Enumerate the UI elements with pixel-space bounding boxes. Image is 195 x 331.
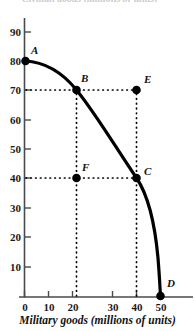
point-label-C: C bbox=[144, 166, 151, 177]
y-tick-label-60: 60 bbox=[1, 115, 21, 126]
y-tick-label-70: 70 bbox=[1, 85, 21, 96]
point-label-A: A bbox=[31, 45, 38, 56]
x-tick-label-10: 10 bbox=[37, 302, 61, 313]
x-tick-label-50: 50 bbox=[149, 302, 173, 313]
y-tick-label-20: 20 bbox=[1, 232, 21, 243]
x-axis-title: Military goods (millions of units) bbox=[0, 313, 195, 327]
point-label-F: F bbox=[82, 162, 89, 173]
y-tick-label-40: 40 bbox=[1, 173, 21, 184]
marker-D bbox=[156, 292, 165, 301]
marker-B bbox=[72, 86, 81, 95]
x-tick-label-0: 0 bbox=[13, 302, 37, 313]
marker-C bbox=[132, 174, 141, 183]
point-label-E: E bbox=[144, 74, 151, 85]
x-tick-label-40: 40 bbox=[125, 302, 149, 313]
marker-E bbox=[132, 86, 141, 95]
ppf-chart-figure: Civilian goods (millions of units) bbox=[0, 0, 195, 331]
point-label-D: D bbox=[167, 278, 175, 289]
y-tick-label-80: 80 bbox=[1, 56, 21, 67]
y-tick-label-10: 10 bbox=[1, 262, 21, 273]
chart-canvas bbox=[0, 0, 195, 331]
x-tick-label-30: 30 bbox=[101, 302, 125, 313]
marker-F bbox=[72, 174, 81, 183]
point-label-B: B bbox=[81, 73, 88, 84]
marker-A bbox=[21, 57, 30, 66]
y-tick-marks bbox=[25, 32, 32, 267]
y-tick-label-50: 50 bbox=[1, 144, 21, 155]
x-tick-marks bbox=[25, 291, 161, 297]
y-tick-label-90: 90 bbox=[1, 27, 21, 38]
x-tick-label-20: 20 bbox=[61, 302, 85, 313]
y-tick-label-30: 30 bbox=[1, 203, 21, 214]
guide-lines bbox=[26, 90, 137, 296]
